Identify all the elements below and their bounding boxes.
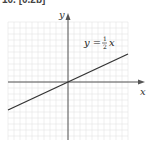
y-axis-arrow-icon [66, 13, 71, 20]
svg-text:2: 2 [103, 43, 107, 50]
graph: x y y = 1 2 x [0, 0, 153, 143]
equation-label: y = 1 2 x [83, 35, 115, 50]
svg-text:1: 1 [103, 35, 107, 42]
svg-text:x: x [109, 37, 115, 48]
x-axis-arrow-icon [138, 80, 145, 85]
y-axis-label: y [58, 9, 65, 20]
svg-text:y =: y = [83, 37, 101, 48]
x-axis-label: x [140, 86, 146, 97]
